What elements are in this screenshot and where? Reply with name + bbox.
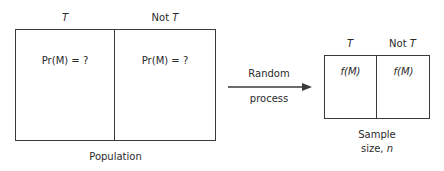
population-col-label-t-var: T [62, 12, 68, 23]
sample-caption-line2-prefix: size, [361, 143, 387, 154]
arrow-right-icon [228, 82, 312, 92]
sample-caption-line2: size, n [324, 143, 430, 154]
population-box: Pr(M) = ? Pr(M) = ? [15, 29, 216, 141]
population-divider [114, 30, 115, 140]
population-col-label-not-t-prefix: Not [152, 12, 173, 23]
population-cell-t: Pr(M) = ? [16, 55, 114, 66]
sample-col-label-not-t-prefix: Not [389, 38, 410, 49]
sample-divider [376, 56, 377, 118]
population-col-label-not-t: Not T [115, 12, 215, 23]
arrow-label-bottom: process [228, 93, 310, 104]
sample-size-var: n [387, 143, 393, 154]
population-cell-not-t: Pr(M) = ? [116, 55, 214, 66]
sample-cell-t: f(M) [325, 66, 376, 77]
sample-cell-not-t: f(M) [378, 66, 429, 77]
sample-col-label-t: T [324, 38, 376, 49]
arrow-label-top: Random [228, 68, 310, 79]
sample-col-label-not-t: Not T [376, 38, 429, 49]
sample-box: f(M) f(M) [324, 55, 430, 119]
sample-col-label-t-var: T [347, 38, 353, 49]
sample-caption-line1: Sample [324, 129, 430, 140]
sample-col-label-not-t-var: T [410, 38, 416, 49]
population-col-label-not-t-var: T [172, 12, 178, 23]
population-caption: Population [15, 151, 216, 162]
population-col-label-t: T [15, 12, 115, 23]
